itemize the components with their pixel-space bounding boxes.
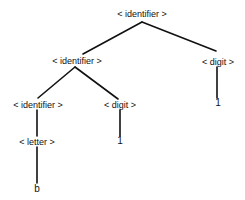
edge-identifier-to-identifier	[38, 67, 75, 98]
node-leaf-b: b	[34, 184, 40, 194]
node-leaf-1-right: 1	[215, 98, 221, 108]
node-identifier-level2: < identifier >	[52, 57, 102, 66]
edge-root-to-digit	[142, 22, 216, 51]
node-digit-level3: < digit >	[104, 101, 136, 110]
node-root-identifier: < identifier >	[117, 10, 167, 19]
node-letter: < letter >	[19, 138, 55, 147]
node-digit-level2: < digit >	[202, 58, 234, 67]
edge-root-to-identifier	[83, 22, 142, 54]
node-leaf-1-middle: 1	[117, 136, 123, 146]
edge-identifier-to-digit	[75, 67, 118, 99]
node-identifier-level3: < identifier >	[13, 101, 63, 110]
